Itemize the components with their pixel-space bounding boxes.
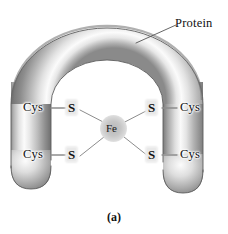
cys-label-bottom-left: Cys bbox=[23, 148, 43, 161]
figure-caption: (a) bbox=[0, 210, 228, 225]
sulfur-label-top-left: S bbox=[67, 101, 76, 114]
cys-label-bottom-right: Cys bbox=[180, 148, 200, 161]
sulfur-label-bottom-right: S bbox=[147, 148, 156, 161]
iron-sulfur-protein-figure: Protein Cys Cys Cys Cys S S S S Fe (a) bbox=[0, 0, 228, 234]
protein-label: Protein bbox=[175, 17, 213, 30]
iron-center-label: Fe bbox=[106, 123, 117, 134]
cys-label-top-left: Cys bbox=[23, 101, 43, 114]
cys-label-top-right: Cys bbox=[180, 101, 200, 114]
sulfur-label-bottom-left: S bbox=[67, 148, 76, 161]
sulfur-label-top-right: S bbox=[147, 101, 156, 114]
